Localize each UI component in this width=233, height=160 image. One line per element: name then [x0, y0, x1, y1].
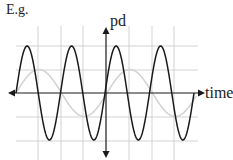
y-axis-down-arrow-icon — [103, 151, 110, 158]
x-axis-right-arrow-icon — [198, 90, 205, 97]
x-axis-left-arrow-icon — [8, 90, 15, 97]
wave-diagram — [0, 0, 233, 160]
y-axis-up-arrow-icon — [103, 27, 110, 34]
